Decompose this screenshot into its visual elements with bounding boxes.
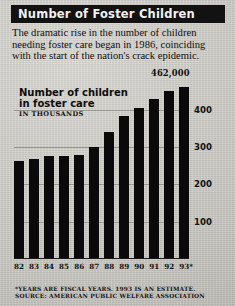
bar-83 — [29, 159, 39, 259]
deck-text: The dramatic rise in the number of child… — [12, 27, 226, 62]
x-tick-86: 86 — [74, 262, 84, 274]
y-tick-200: 200 — [194, 179, 212, 189]
bar-91 — [149, 99, 159, 259]
footnote-years: *YEARS ARE FISCAL YEARS. 1993 IS AN ESTI… — [15, 285, 230, 292]
x-tick-82: 82 — [14, 262, 24, 274]
bar-90 — [134, 108, 144, 259]
bar-87 — [89, 147, 99, 259]
y-axis-labels: 400 300 200 100 — [194, 80, 234, 259]
y-tick-300: 300 — [194, 142, 212, 152]
axis-baseline — [14, 258, 189, 260]
bar-93 — [179, 87, 189, 259]
bar-84 — [44, 156, 54, 259]
footnote-source: SOURCE: AMERICAN PUBLIC WELFARE ASSOCIAT… — [15, 292, 230, 299]
x-tick-85: 85 — [59, 262, 69, 274]
page-title: Number of Foster Children — [11, 7, 195, 21]
y-tick-100: 100 — [194, 217, 212, 227]
bar-82 — [14, 161, 24, 259]
x-tick-87: 87 — [89, 262, 99, 274]
title-banner: Number of Foster Children — [11, 5, 225, 23]
bar-85 — [59, 156, 69, 259]
bar-series — [14, 80, 189, 259]
bar-86 — [74, 155, 84, 259]
bar-92 — [164, 91, 174, 259]
bar-88 — [104, 132, 114, 259]
y-tick-400: 400 — [194, 105, 212, 115]
x-tick-92: 92 — [164, 262, 174, 274]
infographic-sheet: Number of Foster Children The dramatic r… — [0, 0, 235, 306]
footnotes: *YEARS ARE FISCAL YEARS. 1993 IS AN ESTI… — [15, 285, 230, 299]
x-tick-89: 89 — [119, 262, 129, 274]
bar-89 — [119, 116, 129, 259]
x-axis-labels: 828384858687888990919293* — [14, 262, 189, 274]
value-callout: 462,000 — [151, 68, 190, 78]
x-tick-93: 93* — [179, 262, 189, 274]
x-tick-88: 88 — [104, 262, 114, 274]
x-tick-91: 91 — [149, 262, 159, 274]
x-tick-83: 83 — [29, 262, 39, 274]
x-tick-84: 84 — [44, 262, 54, 274]
x-tick-90: 90 — [134, 262, 144, 274]
plot-area — [14, 80, 189, 259]
